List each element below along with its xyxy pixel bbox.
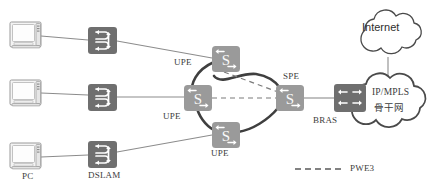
dslam-icon-2	[88, 84, 117, 111]
legend-pwe3-label: PWE3	[350, 163, 374, 173]
link-pc2-dslam2	[41, 93, 88, 95]
pc-icon-2	[10, 80, 41, 106]
label-spe: SPE	[283, 71, 299, 81]
router-icon-upe-bot	[212, 122, 240, 148]
label-bras: BRAS	[313, 115, 337, 125]
label-internet: Internet	[362, 21, 399, 33]
label-upe-bot: UPE	[211, 148, 229, 158]
pc-icon-1	[10, 22, 41, 48]
network-diagram: S	[0, 0, 436, 189]
link-pc3-dslam3	[41, 155, 88, 157]
dslam-icon-1	[88, 27, 117, 54]
router-icon-upe-top	[212, 46, 240, 72]
link-pc1-dslam1	[41, 36, 88, 40]
label-backbone-ipmpls: IP/MPLS	[372, 87, 409, 97]
label-dslam: DSLAM	[88, 170, 121, 180]
router-icon-spe	[276, 85, 304, 111]
pc-icon-3	[10, 143, 41, 169]
label-pc: PC	[22, 171, 33, 181]
dslam-icon-3	[88, 141, 117, 168]
label-upe-mid: UPE	[163, 111, 181, 121]
router-icon-upe-mid	[184, 85, 212, 111]
link-dslam1-upe-top	[117, 41, 212, 58]
bras-icon	[334, 84, 366, 112]
label-backbone-cn: 骨干网	[374, 100, 405, 114]
label-upe-top: UPE	[174, 57, 192, 67]
link-dslam3-upe-bot	[117, 135, 212, 152]
